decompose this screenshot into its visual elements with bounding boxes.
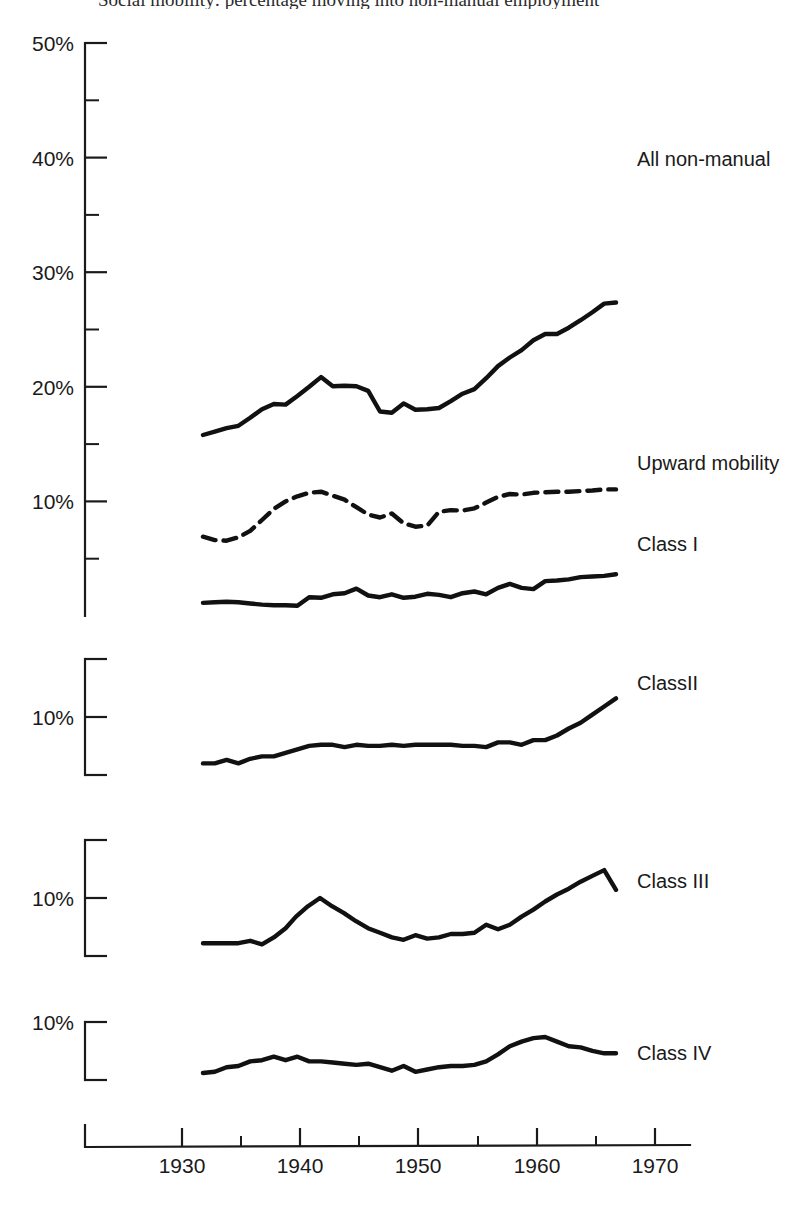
- y-tick-label-class2-10: 10%: [32, 706, 74, 729]
- x-tick-label-1930: 1930: [159, 1154, 206, 1177]
- series-line-all-non-manual: [203, 303, 616, 436]
- chart-canvas: 50% 40% 30% 20% 10% All non-manual Upwar…: [0, 0, 812, 1213]
- panel-class3-y-axis: 10%: [32, 840, 107, 956]
- series-label-class-3: Class III: [637, 870, 709, 892]
- panel-top-y-axis: 50% 40% 30% 20% 10%: [32, 32, 107, 616]
- x-tick-label-1940: 1940: [277, 1154, 324, 1177]
- y-tick-label-50: 50%: [32, 32, 74, 55]
- x-tick-label-1960: 1960: [514, 1154, 561, 1177]
- x-tick-label-1950: 1950: [395, 1154, 442, 1177]
- series-line-class-1: [203, 574, 616, 606]
- y-tick-label-10: 10%: [32, 490, 74, 513]
- y-tick-label-20: 20%: [32, 376, 74, 399]
- x-axis: 1930 1940 1950 1960 1970: [85, 1125, 690, 1177]
- y-tick-label-class4-10: 10%: [32, 1011, 74, 1034]
- series-label-all-non-manual: All non-manual: [637, 148, 770, 170]
- series-line-class-4: [203, 1037, 616, 1073]
- series-label-class-2: ClassII: [637, 672, 698, 694]
- series-line-class-2: [203, 698, 616, 763]
- chart-figure: 50% 40% 30% 20% 10% All non-manual Upwar…: [0, 0, 812, 1213]
- x-axis-line: [85, 1125, 690, 1147]
- panel-class4-y-axis: 10%: [32, 1011, 107, 1080]
- panel-class2-y-axis: 10%: [32, 659, 107, 775]
- y-tick-label-class3-10: 10%: [32, 887, 74, 910]
- series-line-upward-mobility: [203, 489, 616, 540]
- series-label-class-4: Class IV: [637, 1042, 712, 1064]
- series-label-class-1: Class I: [637, 533, 698, 555]
- x-tick-label-1970: 1970: [632, 1154, 679, 1177]
- y-tick-label-30: 30%: [32, 261, 74, 284]
- y-tick-label-40: 40%: [32, 147, 74, 170]
- series-label-upward-mobility: Upward mobility: [637, 452, 779, 474]
- series-line-class-3: [203, 870, 616, 944]
